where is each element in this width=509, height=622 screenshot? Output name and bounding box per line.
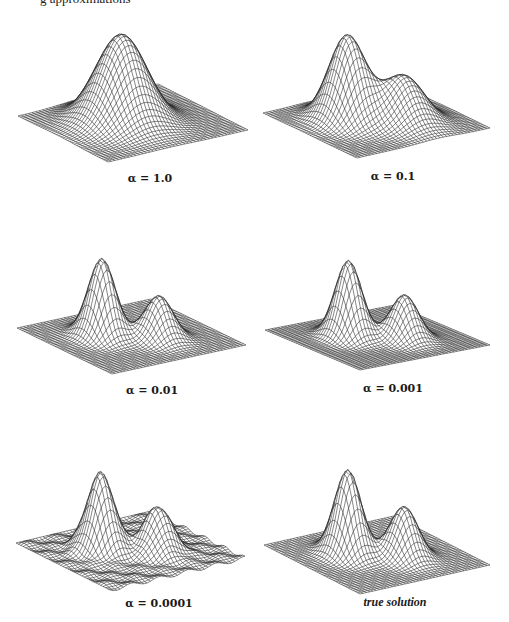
surface-grid-line-v <box>416 357 419 358</box>
surface-grid-line-v <box>267 330 270 331</box>
surface-grid-line-v <box>91 574 94 575</box>
surface-grid-line-v <box>441 568 444 569</box>
surface-grid-line-v <box>389 147 392 148</box>
surface-grid-line-v <box>473 131 476 132</box>
surface-grid-line-v <box>99 358 102 359</box>
surface-grid-line-v <box>396 357 399 358</box>
surface-grid-line-v <box>218 340 221 341</box>
surface-grid-line-v <box>95 149 99 150</box>
surface-grid-line-v <box>391 583 394 584</box>
surface-grid-line-v <box>302 343 305 344</box>
surface-grid-line-v <box>284 540 287 541</box>
surface-grid-line-v <box>393 351 396 352</box>
surface-grid-line-v <box>169 145 173 146</box>
surface-grid-line-v <box>385 575 388 576</box>
surface-grid-line-v <box>215 336 218 337</box>
surface-grid-line-v <box>456 113 459 114</box>
surface-grid-line-v <box>281 111 284 112</box>
surface-grid-line-v <box>479 344 482 345</box>
surface-grid-line-v <box>430 327 433 328</box>
surface-grid-line-v <box>86 348 89 349</box>
surface-grid-line-v <box>458 557 461 558</box>
surface-grid-line-v <box>123 358 126 359</box>
surface-grid-line-v <box>475 340 478 341</box>
surface-grid-line-v <box>376 537 379 538</box>
surface-grid-line-v <box>383 581 386 582</box>
surface-grid-line-v <box>136 317 139 318</box>
surface-grid-line-v <box>382 576 385 577</box>
surface-grid-line-v <box>474 342 477 343</box>
surface-grid-line-v <box>83 148 87 149</box>
surface-grid-line-v <box>380 360 383 361</box>
surface-grid-line-v <box>370 356 373 357</box>
surface-grid-line-v <box>306 535 309 536</box>
surface-grid-line-v <box>203 140 207 141</box>
surface-grid-line-v <box>376 570 379 571</box>
surface-grid-line-v <box>454 351 457 352</box>
surface-grid-line-v <box>272 112 275 113</box>
surface-grid-line-v <box>212 116 216 117</box>
surface-grid-line-v <box>108 369 111 370</box>
surface-grid-line-v <box>432 356 435 357</box>
surface-grid-line-v <box>216 133 220 134</box>
surface-grid-line-v <box>364 361 367 362</box>
surface-grid-line-v <box>159 574 162 575</box>
surface-grid-line-v <box>306 541 309 542</box>
surface-grid-line-v <box>441 542 444 543</box>
surface-grid-line-v <box>356 575 359 576</box>
surface-grid-line-v <box>283 333 286 334</box>
surface-grid-line-v <box>379 349 382 350</box>
surface-grid-line-v <box>191 138 195 139</box>
surface-grid-line-v <box>357 157 360 158</box>
surface-grid-line-v <box>434 329 437 330</box>
surface-grid-line-v <box>57 533 60 534</box>
surface-grid-line-v <box>337 352 340 353</box>
surface-grid-line-v <box>339 575 342 576</box>
surface-grid-line-v <box>121 356 124 357</box>
surface-grid-line-v <box>221 341 224 342</box>
surface-grid-line-v <box>182 144 186 145</box>
surface-grid-line-v <box>370 591 373 592</box>
surface-grid-line-v <box>369 526 372 527</box>
surface-grid-line-v <box>367 570 370 571</box>
surface-grid-line-v <box>385 306 388 307</box>
surface-grid-line-v <box>470 127 473 128</box>
panel-label-alpha-0-1: α = 0.1 <box>371 170 415 183</box>
surface-grid-line-v <box>39 326 42 327</box>
surface-grid-line-v <box>303 329 306 330</box>
surface-grid-line-v <box>399 356 402 357</box>
surface-grid-line-v <box>303 335 306 336</box>
surface-grid-line-v <box>382 307 385 308</box>
surface-grid-line-v <box>59 552 62 553</box>
surface-grid-line-v <box>304 344 307 345</box>
surface-grid-line-v <box>380 575 383 576</box>
surface-grid-line-v <box>335 568 338 569</box>
surface-grid-line-v <box>179 314 182 315</box>
surface-grid-line-v <box>137 577 140 578</box>
surface-grid-line-v <box>441 354 444 355</box>
surface-grid-line-v <box>369 357 372 358</box>
surface-grid-line-v <box>157 362 160 363</box>
surface-grid-line-v <box>204 329 207 330</box>
surface-grid-line-v <box>375 352 378 353</box>
surface-grid-line-v <box>44 556 47 557</box>
surface-grid-line-v <box>132 357 135 358</box>
surface-grid-line-v <box>430 101 433 102</box>
surface-grid-line-v <box>477 347 480 348</box>
surface-grid-line-v <box>471 130 474 131</box>
surface-grid-line-v <box>468 343 471 344</box>
surface-grid-line-v <box>289 339 292 340</box>
surface-grid-line-v <box>341 361 344 362</box>
surface-grid-line-v <box>351 579 354 580</box>
surface-grid-line-v <box>38 117 42 118</box>
surface-grid-line-v <box>449 335 452 336</box>
surface-grid-line-v <box>421 353 424 354</box>
surface-grid-line-v <box>355 357 358 358</box>
surface-grid-line-v <box>219 338 222 339</box>
surface-grid-line-v <box>147 352 150 353</box>
surface-grid-line-v <box>456 338 459 339</box>
surface-grid-line-v <box>78 566 81 568</box>
surface-grid-line-v <box>297 325 300 326</box>
surface-grid-line-v <box>463 565 466 566</box>
surface-grid-line-v <box>351 581 354 582</box>
